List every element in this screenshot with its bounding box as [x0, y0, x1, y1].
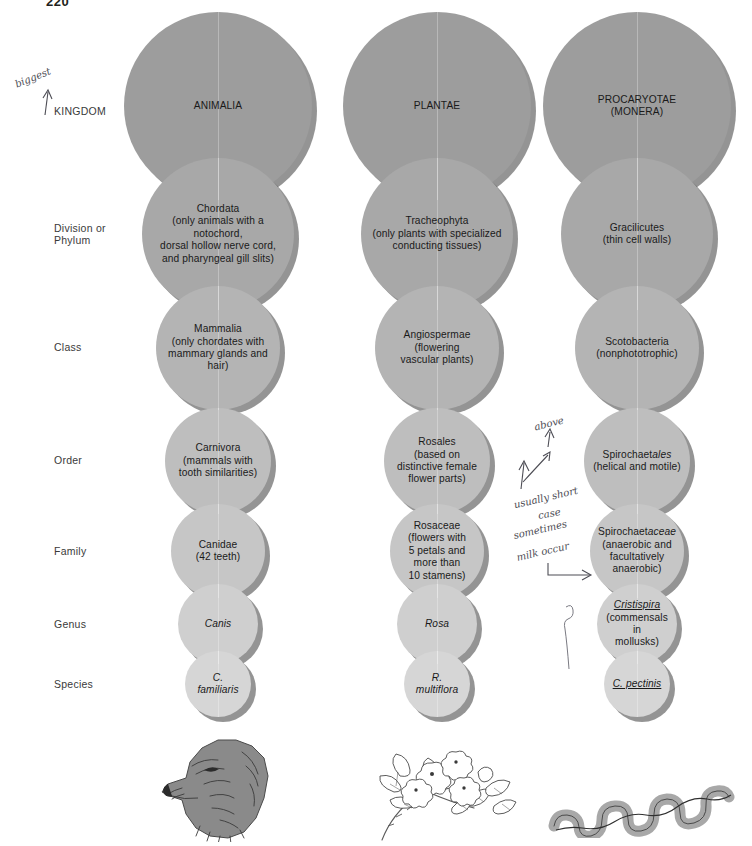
taxon-label: Gracilicutes(thin cell walls): [597, 222, 678, 247]
taxon-label: Rosa: [419, 618, 455, 630]
dog-head-illustration: [152, 722, 292, 842]
taxon-label: Scotobacteria(nonphototrophic): [590, 336, 684, 361]
taxon-label: Carnivora(mammals withtooth similarities…: [173, 442, 263, 479]
taxon-label: ANIMALIA: [188, 100, 248, 112]
taxon-label: C. familiaris: [185, 672, 251, 697]
taxon-label: Tracheophyta(only plants with specialize…: [366, 215, 507, 252]
taxon-label: Chordata(only animals with a notochord,d…: [142, 203, 294, 265]
taxon-label: Canis: [199, 618, 238, 630]
taxon-label: PROCARYOTAE(MONERA): [592, 94, 682, 119]
taxon-label: Spirochaetaceae(anaerobic andfacultative…: [592, 526, 682, 576]
taxon-label: R. multiflora: [404, 672, 470, 697]
taxon-label: PLANTAE: [408, 100, 466, 112]
taxon-label: Angiospermae(floweringvascular plants): [395, 329, 480, 366]
taxon-label: Rosales(based ondistinctive femaleflower…: [391, 436, 483, 486]
taxon-label: Rosaceae(flowers with5 petals andmore th…: [402, 520, 472, 582]
pencil-arrow-biggest: [0, 0, 752, 846]
taxon-label: Spirochaetales(helical and motile): [587, 449, 687, 474]
rose-branch-illustration: [372, 726, 522, 844]
taxon-label: Cristispira(commensals inmollusks): [597, 599, 677, 649]
taxon-label: Mammalia(only chordates withmammary glan…: [156, 323, 280, 373]
taxon-label: C. pectinis: [607, 678, 668, 690]
taxon-label: Canidae(42 teeth): [190, 539, 247, 564]
spirochete-illustration: [548, 752, 746, 838]
